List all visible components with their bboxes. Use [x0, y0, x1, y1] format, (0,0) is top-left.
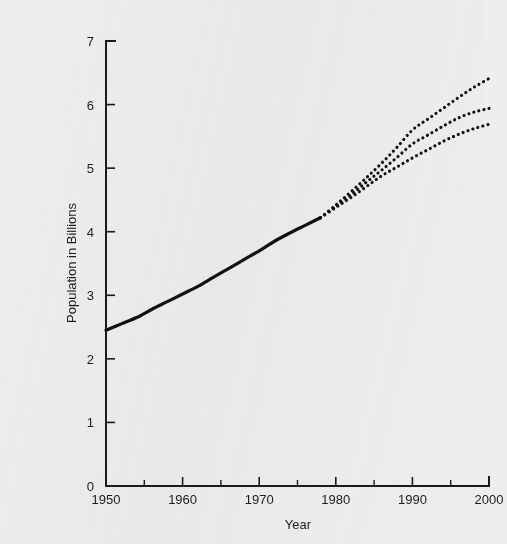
- axis-lines: [106, 41, 489, 486]
- y-tick-label-2: 2: [87, 352, 94, 367]
- data-series-group: [106, 79, 489, 331]
- series-observed-population: [106, 218, 320, 331]
- y-axis-title: Population in Billions: [64, 203, 79, 323]
- y-axis-major-ticks: [106, 41, 115, 422]
- x-tick-label-1990: 1990: [398, 492, 427, 507]
- x-axis-title: Year: [285, 517, 312, 532]
- y-tick-label-1: 1: [87, 415, 94, 430]
- x-axis-tick-labels: 195019601970198019902000: [92, 492, 504, 507]
- y-tick-label-6: 6: [87, 98, 94, 113]
- x-tick-label-2000: 2000: [475, 492, 504, 507]
- y-tick-label-4: 4: [87, 225, 94, 240]
- x-tick-label-1970: 1970: [245, 492, 274, 507]
- population-projection-chart: 195019601970198019902000 01234567 Year P…: [40, 16, 443, 528]
- x-tick-label-1960: 1960: [168, 492, 197, 507]
- x-tick-label-1950: 1950: [92, 492, 121, 507]
- chart-canvas: 195019601970198019902000 01234567 Year P…: [40, 16, 507, 544]
- y-tick-label-3: 3: [87, 288, 94, 303]
- x-tick-label-1980: 1980: [321, 492, 350, 507]
- y-tick-label-5: 5: [87, 161, 94, 176]
- y-axis-tick-labels: 01234567: [87, 34, 94, 494]
- y-tick-label-0: 0: [87, 479, 94, 494]
- y-tick-label-7: 7: [87, 34, 94, 49]
- series-high-projection: [320, 79, 489, 218]
